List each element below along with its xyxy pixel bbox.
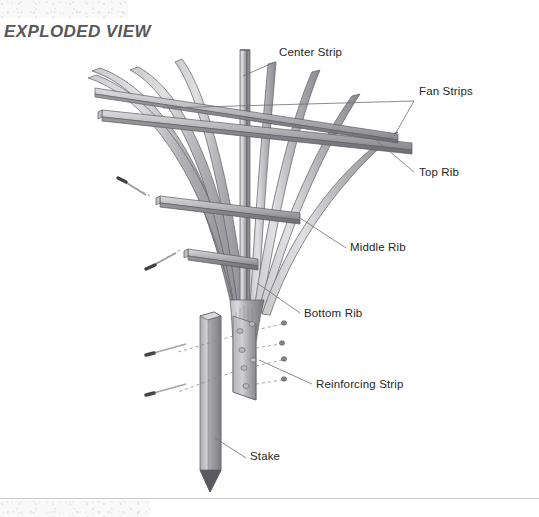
footer-divider: [0, 498, 539, 499]
stake: [200, 312, 221, 492]
leader-line-fan-strips-b: [394, 101, 414, 136]
callout-label-stake: Stake: [250, 450, 280, 462]
callout-label-fan-strips: Fan Strips: [419, 85, 473, 97]
screw-stake-upper: [146, 344, 186, 355]
screw-stake-lower: [146, 384, 186, 395]
callout-label-reinforcing-strip: Reinforcing Strip: [316, 378, 404, 390]
exploded-view-illustration: [0, 0, 539, 517]
callout-label-center-strip: Center Strip: [279, 46, 342, 58]
screw-middle-rib: [146, 253, 176, 269]
center-strip: [240, 50, 250, 312]
exploded-view-page: EXPLODED VIEW: [0, 0, 539, 517]
callout-label-top-rib: Top Rib: [419, 166, 459, 178]
callout-label-middle-rib: Middle Rib: [350, 241, 406, 253]
callout-label-bottom-rib: Bottom Rib: [304, 307, 362, 319]
fan-strip-8: [262, 132, 398, 315]
screw-top-rib: [118, 178, 146, 195]
